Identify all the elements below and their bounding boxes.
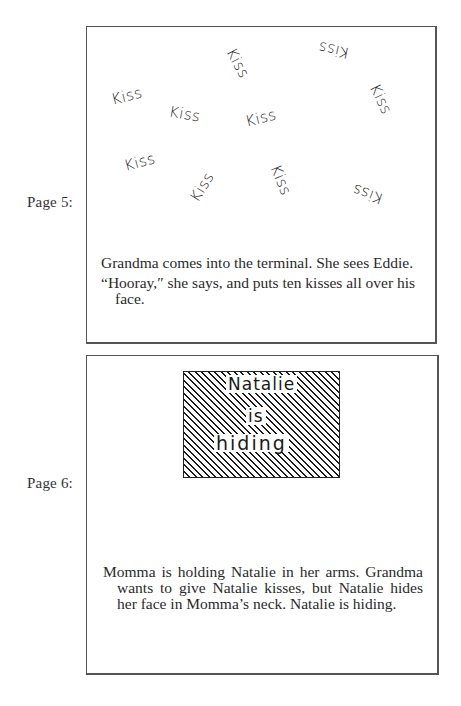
caption-paragraph: Grandma comes into the terminal. She see… (101, 255, 423, 271)
hatch-word-is: is (246, 407, 266, 425)
kiss-word: Kiss (267, 162, 296, 198)
kiss-word: Kiss (186, 169, 218, 205)
kiss-word: Kiss (350, 180, 386, 208)
page-5-label: Page 5: (27, 194, 73, 211)
page-6-label: Page 6: (27, 475, 73, 492)
kiss-word: Kiss (168, 102, 202, 125)
page-6-caption: Momma is holding Natalie in her arms. Gr… (103, 564, 423, 612)
page-5-caption: Grandma comes into the terminal. She see… (101, 255, 423, 307)
hatch-word-natalie: Natalie (226, 375, 297, 393)
hatch-word-hiding: hiding (214, 434, 289, 452)
hatched-illustration: Natalie is hiding (183, 371, 340, 478)
page-5-panel: KissKissKissKissKissKissKissKissKissKiss… (86, 26, 437, 344)
caption-paragraph: “Hooray,″ she says, and puts ten kisses … (101, 275, 423, 307)
kiss-word: Kiss (366, 81, 396, 117)
kiss-word: Kiss (243, 105, 278, 130)
kiss-word: Kiss (122, 149, 157, 175)
page-6-panel: Natalie is hiding Momma is holding Natal… (86, 355, 439, 675)
kiss-word: Kiss (316, 38, 351, 62)
kiss-word: Kiss (222, 45, 253, 81)
caption-paragraph: Momma is holding Natalie in her arms. Gr… (103, 564, 423, 612)
kiss-word: Kiss (109, 83, 144, 108)
